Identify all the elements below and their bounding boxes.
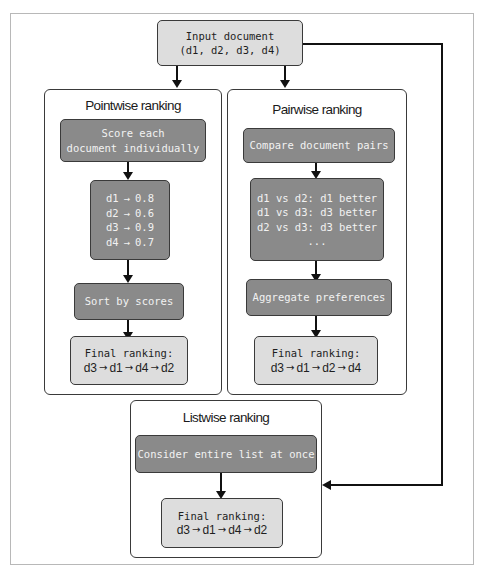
arrow-down-icon — [123, 172, 133, 180]
arrow-down-icon — [172, 80, 182, 88]
pointwise-sort-step: Sort by scores — [74, 283, 184, 320]
input-document-list: (d1, d2, d3, d4) — [179, 43, 280, 58]
final-ranking-label: Final ranking: — [178, 509, 267, 524]
final-ranking-order: d3→ d1→ d4→ d2 — [84, 361, 175, 376]
connector-input-listwise-h1 — [303, 43, 443, 45]
listwise-consider-step: Consider entire list at once — [135, 435, 317, 473]
arrow-left-icon — [322, 480, 331, 490]
listwise-title: Listwise ranking — [131, 410, 321, 425]
pointwise-scores-box: d1→0.8 d2→0.6 d3→0.9 d4→0.7 — [90, 180, 170, 260]
arrow-down-icon — [280, 80, 290, 88]
step-text: Consider entire list at once — [137, 447, 314, 462]
pairwise-compare-step: Compare document pairs — [243, 128, 395, 163]
pairwise-final-ranking: Final ranking: d3→ d1→ d2→ d4 — [254, 336, 378, 385]
input-document-node: Input document (d1, d2, d3, d4) — [157, 20, 303, 66]
pairwise-comparisons-box: d1 vs d2: d1 better d1 vs d3: d3 better … — [250, 178, 384, 261]
comparison-item: ... — [308, 234, 327, 249]
comparison-item: d2 vs d3: d3 better — [257, 220, 377, 235]
pointwise-score-step: Score each document individually — [60, 119, 206, 162]
step-text: Aggregate preferences — [253, 290, 386, 305]
step-text: Score each — [101, 126, 164, 141]
input-document-label: Input document — [186, 29, 275, 44]
arrow-down-icon — [123, 275, 133, 283]
pointwise-final-ranking: Final ranking: d3→ d1→ d4→ d2 — [70, 336, 188, 385]
connector — [220, 473, 222, 493]
pointwise-title: Pointwise ranking — [45, 98, 221, 113]
connector-input-listwise-v — [441, 43, 443, 486]
comparison-item: d1 vs d2: d1 better — [257, 191, 377, 206]
comparison-item: d1 vs d3: d3 better — [257, 205, 377, 220]
listwise-final-ranking: Final ranking: d3→ d1→ d4→ d2 — [161, 498, 283, 548]
pairwise-aggregate-step: Aggregate preferences — [246, 279, 392, 316]
step-text: Compare document pairs — [249, 138, 388, 153]
final-ranking-label: Final ranking: — [85, 346, 174, 361]
final-ranking-order: d3→ d1→ d4→ d2 — [177, 523, 268, 538]
final-ranking-order: d3→ d1→ d2→ d4 — [271, 361, 362, 376]
final-ranking-label: Final ranking: — [272, 346, 361, 361]
score-row: d3→0.9 — [106, 220, 154, 235]
score-row: d1→0.8 — [106, 191, 154, 206]
score-row: d2→0.6 — [106, 206, 154, 221]
step-text: document individually — [67, 141, 200, 156]
step-text: Sort by scores — [85, 294, 174, 309]
score-row: d4→0.7 — [106, 235, 154, 250]
connector-input-listwise-h2 — [330, 484, 443, 486]
pairwise-title: Pairwise ranking — [228, 102, 406, 117]
